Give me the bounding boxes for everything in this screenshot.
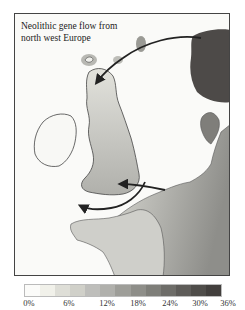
legend-label: 36%: [220, 298, 236, 308]
legend-swatch: [55, 285, 70, 296]
legend-swatch: [146, 285, 161, 296]
legend-label: 30%: [192, 298, 208, 308]
legend-swatch: [161, 285, 176, 296]
legend-labels: 0%6%12%18%24%30%36%: [16, 298, 230, 310]
legend-label: 24%: [162, 298, 178, 308]
legend-label: 12%: [99, 298, 115, 308]
france-region: [70, 210, 164, 276]
great-britain-region: [82, 69, 140, 195]
legend-label: 0%: [23, 298, 34, 308]
scandinavia-region: [190, 29, 230, 102]
gene-flow-map: [15, 14, 230, 276]
legend-swatch: [85, 285, 100, 296]
map-title: Neolithic gene flow from north west Euro…: [21, 20, 131, 44]
legend-swatch: [206, 285, 221, 296]
legend-label: 6%: [63, 298, 74, 308]
legend-swatch: [176, 285, 191, 296]
legend-swatch: [70, 285, 85, 296]
map-frame: Neolithic gene flow from north west Euro…: [14, 13, 230, 276]
denmark-region: [201, 113, 220, 144]
color-scale-legend: [24, 284, 222, 297]
legend-swatch: [100, 285, 115, 296]
ireland-region: [34, 114, 76, 167]
legend-swatch: [131, 285, 146, 296]
legend-swatch: [115, 285, 130, 296]
legend-swatch: [25, 285, 40, 296]
legend-swatch: [191, 285, 206, 296]
legend-swatch: [40, 285, 55, 296]
legend-label: 18%: [130, 298, 146, 308]
